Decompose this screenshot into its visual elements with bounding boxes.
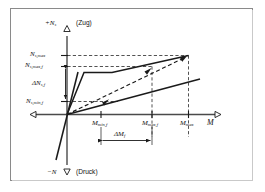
y-axis-positive-note: (Zug) — [76, 20, 92, 27]
y-label-delta-ns-f: ΔNs,f — [32, 80, 45, 87]
x-label-m-min-f: Mmin,f — [92, 120, 107, 127]
plot-area — [0, 0, 265, 192]
y-axis-down-arrow — [64, 169, 70, 175]
x-label-delta-m-f: ΔMf — [114, 131, 125, 138]
x-axis-label: M — [207, 119, 214, 127]
x-label-m-max: Mmax — [180, 120, 194, 127]
y-axis-negative-label: −N — [47, 169, 56, 176]
y-axis-up-arrow — [64, 26, 70, 32]
diagram-svg — [0, 0, 265, 192]
y-axis — [64, 26, 70, 176]
reference-lines — [62, 56, 189, 138]
x-label-m-max-f: Mmax,f — [142, 120, 158, 127]
x-axis-left-arrow — [30, 111, 36, 117]
y-axis-negative-note: (Druck) — [76, 169, 98, 176]
x-axis — [30, 111, 221, 117]
diagram-screenshot: +Ns (Zug) −N (Druck) Ns,max Ns,max,f ΔNs… — [0, 0, 265, 192]
secant-fatigue-dashed-line — [67, 57, 186, 115]
y-axis-positive-label: +Ns — [45, 20, 56, 27]
y-label-ns-max: Ns,max — [30, 51, 45, 58]
state-i-uncracked-line — [67, 79, 200, 115]
y-label-ns-max-f: Ns,max,f — [25, 62, 43, 69]
x-axis-right-arrow — [215, 111, 221, 117]
y-label-ns-min-f: Ns,min,f — [26, 98, 43, 105]
delta-m-dimension — [101, 127, 152, 145]
